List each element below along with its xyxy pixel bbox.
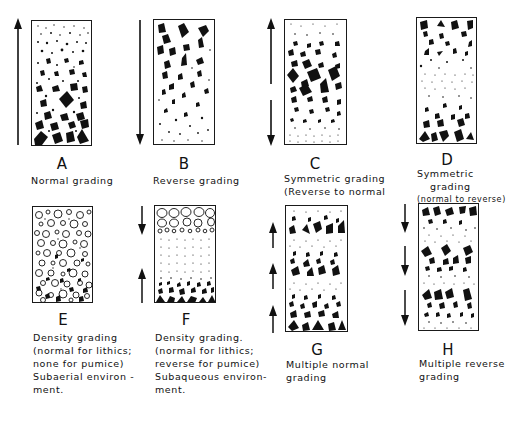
- panel-caption-g-line1: Multiple normal: [286, 358, 369, 372]
- panel-letter-c: C: [280, 155, 350, 173]
- clast-pattern-pumice-lithics-subaerial: [33, 207, 93, 303]
- clast-pattern-symmetric-normal-to-reverse: [417, 18, 477, 144]
- panel-caption-c-line1: Symmetric grading: [284, 172, 385, 186]
- grading-column-b: [153, 19, 215, 145]
- panel-caption-h-line2: grading: [419, 370, 460, 384]
- panel-caption-f-line3: reverse for pumice): [155, 357, 260, 371]
- clast-pattern-symmetric: [285, 20, 347, 145]
- panel-caption-e-line4: Subaerial environ -: [33, 370, 134, 384]
- grading-column-e: [32, 206, 93, 303]
- double-arrow-icon: [265, 18, 277, 148]
- clast-pattern-reverse: [154, 20, 215, 145]
- panel-caption-h-line1: Multiple reverse: [419, 357, 505, 371]
- panel-caption-a: Normal grading: [31, 174, 113, 188]
- panel-letter-g: G: [282, 341, 352, 359]
- panel-letter-a: A: [27, 155, 97, 173]
- panel-caption-e-line5: ment.: [33, 383, 64, 397]
- clast-pattern-multiple-reverse: [419, 204, 479, 331]
- panel-caption-d-line1: Symmetric: [417, 167, 474, 181]
- panel-caption-f-line1: Density grading.: [155, 331, 243, 345]
- grading-column-h: [418, 203, 479, 331]
- panel-caption-f-line2: (normal for lithics;: [155, 344, 254, 358]
- panel-caption-d-line2: grading: [430, 180, 471, 194]
- clast-pattern-normal: [32, 21, 92, 146]
- panel-letter-f: F: [151, 311, 221, 329]
- clast-pattern-pumice-lithics-subaqueous: [155, 206, 216, 303]
- panel-caption-b: Reverse grading: [153, 174, 240, 188]
- triple-arrow-up-icon: [267, 205, 279, 335]
- panel-caption-e-line3: none for pumice): [33, 357, 124, 371]
- triple-arrow-down-icon: [399, 204, 411, 334]
- panel-caption-e-line1: Density grading: [33, 331, 118, 345]
- arrow-down-icon: [134, 18, 146, 148]
- arrow-down-icon: [136, 204, 148, 304]
- panel-letter-e: E: [28, 311, 98, 329]
- clast-pattern-multiple-normal: [286, 206, 348, 332]
- panel-caption-f-line4: Subaqueous environ-: [155, 370, 267, 384]
- grading-column-d: [416, 17, 477, 144]
- grading-column-f: [154, 205, 216, 303]
- panel-caption-g-line2: grading: [286, 371, 327, 385]
- panel-letter-b: B: [149, 155, 219, 173]
- grading-column-c: [284, 19, 347, 145]
- grading-column-a: [31, 20, 92, 146]
- arrow-up-icon: [12, 18, 24, 148]
- panel-caption-f-line5: ment.: [155, 383, 186, 397]
- grading-column-g: [285, 205, 348, 332]
- panel-caption-c-line2: (Reverse to normal: [284, 185, 386, 199]
- panel-caption-e-line2: (normal for lithics;: [33, 344, 132, 358]
